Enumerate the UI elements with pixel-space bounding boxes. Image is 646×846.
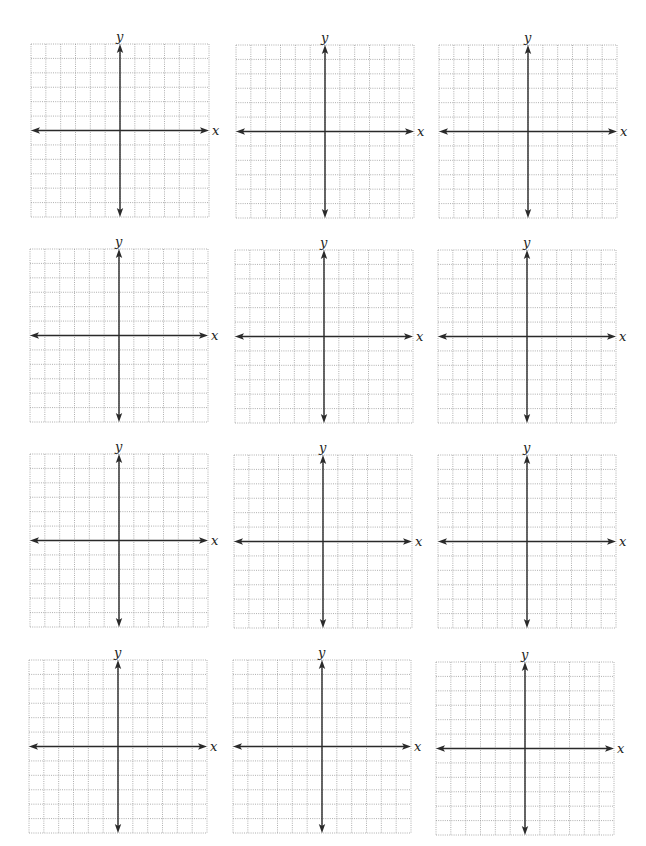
coordinate-plane-7: x y <box>26 442 226 642</box>
x-axis-label: x <box>414 739 422 754</box>
y-axis-label: y <box>522 235 531 250</box>
y-axis-label: y <box>115 29 124 44</box>
coordinate-plane-5: x y <box>231 238 431 438</box>
coordinate-plane-6: x y <box>434 238 634 438</box>
x-axis-label: x <box>211 533 219 548</box>
y-axis-label: y <box>319 235 328 250</box>
x-axis-label: x <box>620 124 628 139</box>
x-axis-label: x <box>619 534 627 549</box>
x-axis-label: x <box>415 534 423 549</box>
x-axis-label: x <box>617 741 625 756</box>
coordinate-plane-3: x y <box>435 33 635 233</box>
coordinate-plane-11: x y <box>229 648 429 846</box>
y-axis-label: y <box>318 440 327 455</box>
x-axis-label: x <box>212 123 220 138</box>
y-axis-label: y <box>114 234 123 249</box>
x-axis-label: x <box>416 329 424 344</box>
coordinate-plane-4: x y <box>26 237 226 437</box>
coordinate-plane-1: x y <box>27 32 227 232</box>
y-axis-label: y <box>114 439 123 454</box>
y-axis-label: y <box>113 645 122 660</box>
y-axis-label: y <box>522 440 531 455</box>
coordinate-plane-10: x y <box>25 648 225 846</box>
x-axis-label: x <box>619 329 627 344</box>
coordinate-plane-2: x y <box>232 33 432 233</box>
y-axis-label: y <box>520 647 529 662</box>
coordinate-plane-9: x y <box>434 443 634 643</box>
x-axis-label: x <box>417 124 425 139</box>
coordinate-plane-12: x y <box>432 650 632 846</box>
y-axis-label: y <box>320 30 329 45</box>
y-axis-label: y <box>317 645 326 660</box>
y-axis-label: y <box>523 30 532 45</box>
x-axis-label: x <box>210 739 218 754</box>
x-axis-label: x <box>211 328 219 343</box>
coordinate-plane-8: x y <box>230 443 430 643</box>
